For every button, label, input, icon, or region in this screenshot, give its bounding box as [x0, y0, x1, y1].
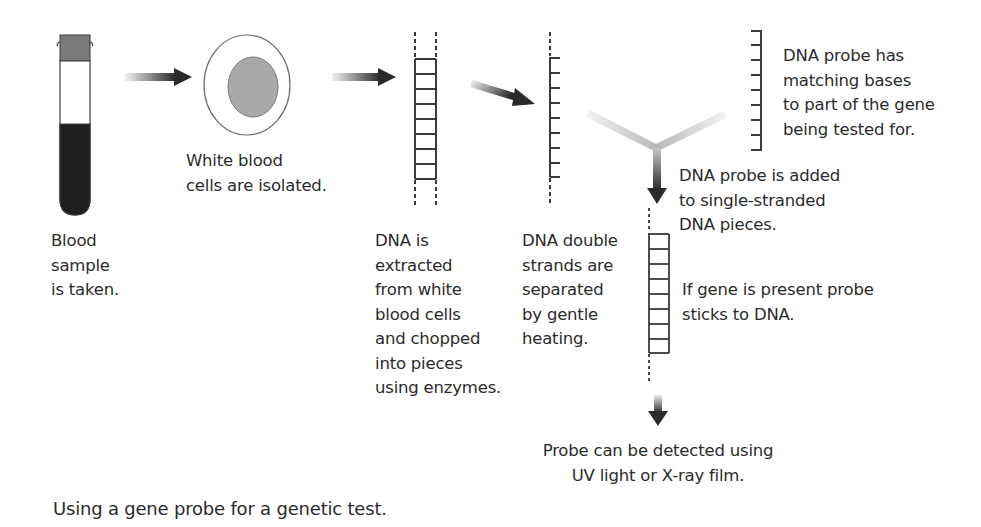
arrow-right-icon [332, 68, 396, 86]
test-tube-icon [57, 35, 93, 215]
label-strands-separated: DNA double strands are separated by gent… [522, 229, 618, 352]
arrow-right-icon [125, 68, 192, 86]
label-dna-extracted: DNA is extracted from white blood cells … [375, 229, 501, 401]
label-probe-sticks: If gene is present probe sticks to DNA. [682, 278, 874, 327]
white-blood-cell-icon [204, 35, 290, 135]
label-white-cells: White blood cells are isolated. [186, 149, 327, 198]
figure-caption: Using a gene probe for a genetic test. [53, 498, 387, 519]
gene-probe-diagram: Blood sample is taken. White blood cells… [0, 0, 981, 527]
label-probe-added: DNA probe is added to single-stranded DN… [679, 164, 840, 238]
probe-bound-dna-icon [649, 208, 669, 382]
label-blood-sample: Blood sample is taken. [51, 229, 119, 303]
double-stranded-dna-icon [415, 32, 436, 208]
single-stranded-dna-icon [550, 32, 560, 206]
arrow-diagonal-icon [470, 80, 535, 106]
dna-probe-icon [751, 30, 761, 151]
label-probe-description: DNA probe has matching bases to part of … [783, 44, 935, 142]
label-probe-detected: Probe can be detected using UV light or … [520, 439, 796, 488]
arrow-down-icon [648, 395, 668, 426]
